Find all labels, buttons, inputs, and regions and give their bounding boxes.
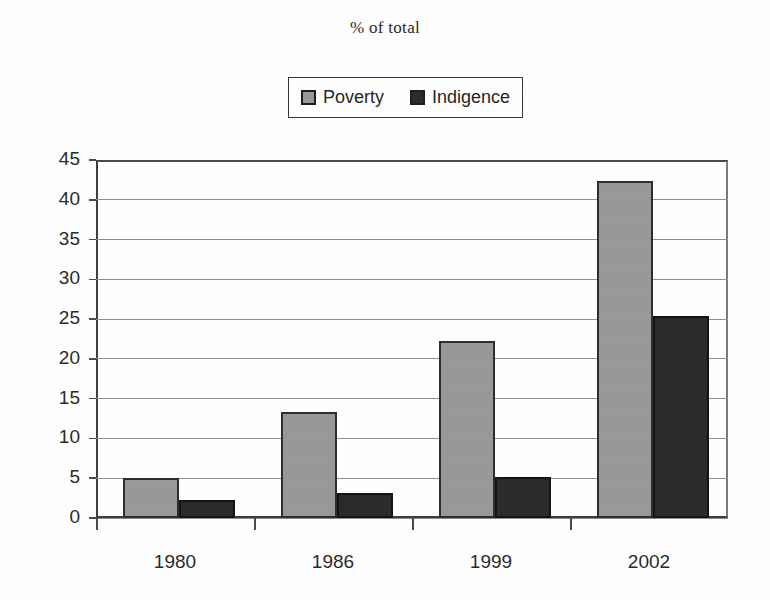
y-tick-label-wrap: 25 bbox=[30, 307, 80, 329]
chart-page: % of total Poverty Indigence 45403530252… bbox=[0, 0, 770, 603]
y-tick-mark bbox=[89, 239, 96, 241]
y-tick-mark bbox=[89, 517, 96, 519]
y-tick-mark bbox=[89, 159, 96, 161]
y-tick-mark bbox=[89, 318, 96, 320]
x-category-label-2002: 2002 bbox=[570, 551, 728, 573]
y-tick-label: 45 bbox=[36, 148, 80, 170]
x-category-label-1999: 1999 bbox=[412, 551, 570, 573]
y-tick-label-wrap: 40 bbox=[30, 188, 80, 210]
x-tick-mark bbox=[254, 518, 256, 530]
y-tick-label-wrap: 5 bbox=[30, 466, 80, 488]
y-tick-mark bbox=[89, 438, 96, 440]
bar-indigence-1999 bbox=[495, 477, 551, 518]
y-tick-label-wrap: 0 bbox=[30, 506, 80, 528]
y-tick-mark bbox=[89, 279, 96, 281]
y-tick-label-wrap: 30 bbox=[30, 267, 80, 289]
y-tick-label: 5 bbox=[36, 466, 80, 488]
x-tick-mark bbox=[412, 518, 414, 530]
y-tick-mark bbox=[89, 398, 96, 400]
y-tick-label-wrap: 20 bbox=[30, 347, 80, 369]
plot-area: 454035302520151050 1980198619992002 bbox=[0, 0, 770, 603]
y-tick-mark bbox=[89, 358, 96, 360]
bar-poverty-2002 bbox=[597, 181, 653, 518]
y-tick-label-wrap: 10 bbox=[30, 426, 80, 448]
x-category-label-1980: 1980 bbox=[96, 551, 254, 573]
y-tick-label-wrap: 15 bbox=[30, 387, 80, 409]
y-tick-label-wrap: 35 bbox=[30, 228, 80, 250]
x-tick-mark bbox=[570, 518, 572, 530]
y-tick-label: 10 bbox=[36, 426, 80, 448]
y-tick-label: 30 bbox=[36, 267, 80, 289]
bar-poverty-1999 bbox=[439, 341, 495, 518]
y-tick-label: 35 bbox=[36, 228, 80, 250]
bar-indigence-1980 bbox=[179, 500, 235, 518]
y-tick-label: 20 bbox=[36, 347, 80, 369]
y-tick-label: 25 bbox=[36, 307, 80, 329]
x-category-label-1986: 1986 bbox=[254, 551, 412, 573]
bar-indigence-1986 bbox=[337, 493, 393, 518]
y-tick-mark bbox=[89, 199, 96, 201]
y-tick-mark bbox=[89, 477, 96, 479]
y-tick-label-wrap: 45 bbox=[30, 148, 80, 170]
bar-indigence-2002 bbox=[653, 316, 709, 518]
y-tick-label: 15 bbox=[36, 387, 80, 409]
x-tick-mark bbox=[96, 518, 98, 530]
y-tick-label: 0 bbox=[36, 506, 80, 528]
bar-poverty-1986 bbox=[281, 412, 337, 518]
y-tick-label: 40 bbox=[36, 188, 80, 210]
bar-poverty-1980 bbox=[123, 478, 179, 518]
